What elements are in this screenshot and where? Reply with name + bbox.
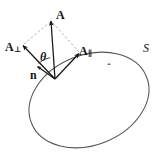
label-angle-theta-text: θ [40, 50, 46, 64]
label-vector-a-par-text: A [79, 44, 88, 58]
vector-decomposition-figure: A A⊥ A∥ θ ˆn S [0, 0, 158, 154]
label-vector-a-par-subscript: ∥ [88, 49, 92, 58]
label-normal-n-text: n [30, 68, 37, 82]
label-vector-a-par: A∥ [79, 45, 92, 58]
label-surface-s-text: S [143, 41, 149, 55]
hat-accent-icon: ˆ [107, 63, 110, 73]
dashed-line-perp-to-a [24, 22, 50, 44]
label-vector-a: A [56, 9, 65, 21]
label-angle-theta: θ [40, 51, 46, 63]
label-normal-n-hat: ˆn [30, 69, 158, 81]
label-vector-a-perp-text: A [5, 40, 14, 54]
label-vector-a-perp-subscript: ⊥ [14, 45, 22, 54]
label-surface-s: S [143, 42, 149, 54]
label-vector-a-text: A [56, 8, 65, 22]
label-vector-a-perp: A⊥ [5, 41, 22, 54]
dashed-line-par-to-a [52, 22, 79, 52]
